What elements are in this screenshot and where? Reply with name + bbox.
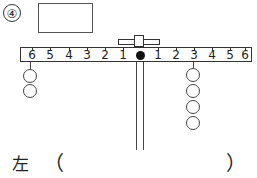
right-mark-2: 2 — [170, 49, 182, 62]
right-weight-4 — [186, 116, 200, 130]
right-mark-1: 1 — [152, 49, 164, 62]
open-paren: （ — [44, 147, 64, 176]
right-mark-3: 3 — [188, 49, 200, 62]
right-weight-1 — [186, 68, 200, 82]
left-mark-2: 2 — [99, 49, 111, 62]
left-mark-1: 1 — [117, 49, 129, 62]
stand-post — [134, 35, 144, 47]
answer-box[interactable] — [38, 3, 93, 33]
close-paren: ） — [226, 147, 246, 176]
answer-field[interactable] — [62, 150, 232, 172]
stand-pole-left — [136, 62, 137, 150]
right-weight-2 — [186, 84, 200, 98]
left-weight-string — [30, 62, 31, 69]
left-mark-3: 3 — [81, 49, 93, 62]
left-mark-6: 6 — [26, 49, 38, 62]
left-mark-5: 5 — [44, 49, 56, 62]
lever-beam: 6 5 4 3 2 1 1 2 3 4 5 6 — [20, 47, 252, 62]
stand-pole-right — [143, 62, 144, 150]
left-weight-1 — [23, 69, 37, 83]
fulcrum-pivot — [136, 51, 145, 60]
question-number: ④ — [3, 4, 21, 22]
answer-label: 左 — [12, 150, 29, 175]
left-weight-2 — [23, 84, 37, 98]
right-mark-4: 4 — [206, 49, 218, 62]
right-weight-3 — [186, 100, 200, 114]
right-mark-5: 5 — [224, 49, 236, 62]
right-mark-6: 6 — [239, 49, 251, 62]
left-mark-4: 4 — [63, 49, 75, 62]
